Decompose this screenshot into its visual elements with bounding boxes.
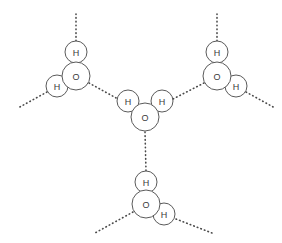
hbond-center-to-bottom [145,132,146,171]
hydrogen-atom [206,41,228,63]
water-molecule-top-left: HHO [46,41,90,97]
water-molecule-top-right: HHO [203,41,247,97]
molecule-layer: HHOHHOHHOHHO [46,41,247,225]
oxygen-atom [132,190,160,218]
hbond-top-right-to-center [173,83,204,99]
hbond-top-right-outward-right [246,92,275,108]
diagram-canvas: HHOHHOHHOHHO [0,0,282,243]
water-molecule-bottom: HHO [132,171,175,225]
hbond-bottom-outward-left [95,212,133,233]
oxygen-atom [62,62,90,90]
hbond-top-left-outward-left [18,92,47,108]
oxygen-atom [131,103,159,131]
hbond-bottom-outward-right [176,219,212,233]
hydrogen-atom [65,41,87,63]
hydrogen-bond-diagram: HHOHHOHHOHHO [0,0,282,243]
hbond-top-left-to-center [89,83,118,99]
oxygen-atom [203,62,231,90]
water-molecule-center: HHO [117,90,173,131]
